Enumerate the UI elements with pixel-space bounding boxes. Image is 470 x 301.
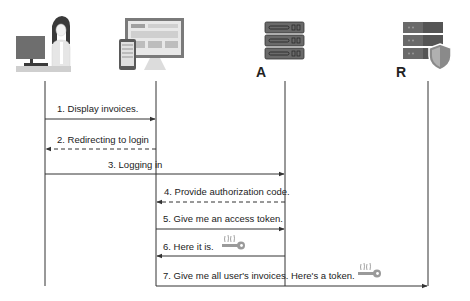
actor-label-resource-server: R [396, 64, 406, 80]
message-1-label: 1. Display invoices. [57, 103, 138, 114]
web-app-devices-icon [119, 18, 184, 70]
secure-server-shield-icon [403, 22, 451, 70]
message-3-label: 3. Logging in [108, 159, 162, 170]
key-token-icon [358, 263, 381, 278]
actor-label-auth-server: A [256, 64, 266, 80]
message-2-label: 2. Redirecting to login [57, 134, 149, 145]
key-token-icon [222, 235, 245, 250]
message-4-label: 4. Provide authorization code. [164, 186, 290, 197]
server-rack-icon [265, 22, 304, 59]
message-5-label: 5. Give me an access token. [163, 213, 283, 224]
message-7-label: 7. Give me all user's invoices. Here's a… [163, 270, 355, 281]
message-6-label: 6. Here it is. [163, 241, 214, 252]
user-at-computer-icon [16, 16, 71, 72]
diagram-canvas [0, 0, 470, 301]
sequence-diagram: A R 1. Display invoices. 2. Redirecting … [0, 0, 470, 301]
